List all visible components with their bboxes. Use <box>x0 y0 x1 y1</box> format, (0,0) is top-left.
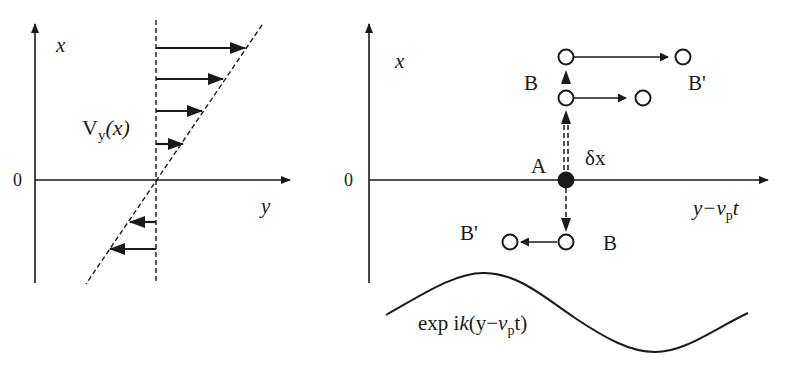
left-panel: x 0 y Vy(x) <box>13 20 290 284</box>
fluid-element-b <box>559 91 574 106</box>
wave-label: exp ik(y−vpt) <box>418 311 527 338</box>
displacement-label: δx <box>585 146 606 170</box>
point-a-label: A <box>531 154 547 178</box>
point-b-prime-lower-label: B' <box>460 221 478 245</box>
fluid-element-a <box>558 172 575 189</box>
displacement-arrowhead-upper <box>561 70 571 84</box>
velocity-label-arg: (x) <box>105 115 129 140</box>
fluid-element-b-lower-displaced <box>503 235 518 250</box>
right-y-axis-label-sub: p <box>726 208 733 223</box>
right-panel: x 0 A δx B B' B B' y−vpt exp ik(y−vpt) <box>344 24 768 352</box>
displacement-arrowhead-down <box>561 218 571 232</box>
right-y-axis-label-t: t <box>733 196 740 220</box>
left-y-axis-label: y <box>259 194 271 218</box>
fluid-element-b-lower <box>559 235 574 250</box>
fluid-element-b-displaced <box>636 91 651 106</box>
displacement-arrowhead-lower <box>561 110 571 124</box>
velocity-label: Vy(x) <box>82 115 130 143</box>
right-origin-label: 0 <box>344 170 353 190</box>
point-b-lower-label: B <box>603 231 617 255</box>
fluid-element-b-top-displaced <box>676 50 691 65</box>
right-y-axis-label-main: y− <box>691 196 717 220</box>
wave-label-open: (y− <box>469 311 498 335</box>
left-origin-label: 0 <box>13 170 22 190</box>
wave-label-sub: p <box>507 323 514 338</box>
velocity-label-main: V <box>82 115 98 140</box>
velocity-profile-line <box>86 25 262 284</box>
point-b-upper-label: B <box>524 71 538 95</box>
left-x-axis-label: x <box>55 33 66 57</box>
right-y-axis-label: y−vpt <box>691 196 740 223</box>
point-b-prime-upper-label: B' <box>688 71 706 95</box>
right-x-axis-label: x <box>394 49 405 73</box>
fluid-element-b-top <box>559 50 574 65</box>
wave-label-prefix: exp i <box>418 311 460 335</box>
wave-label-close: t) <box>514 311 527 335</box>
shear-flow-diagram: x 0 y Vy(x) x 0 <box>0 0 790 378</box>
